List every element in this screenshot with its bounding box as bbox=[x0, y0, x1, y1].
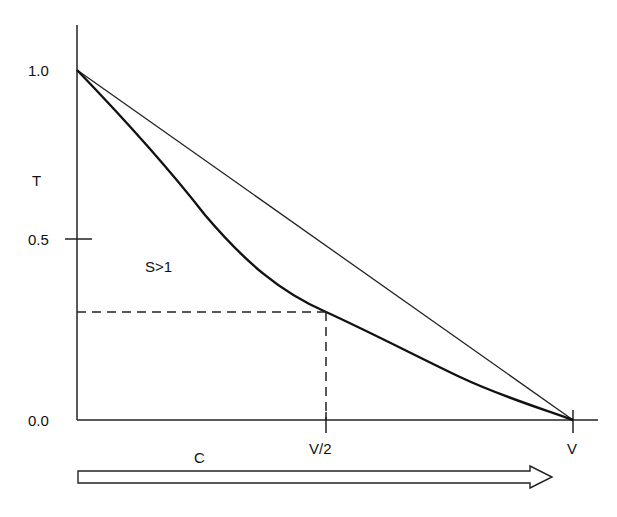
y-axis-label: T bbox=[32, 173, 41, 188]
annotation-label: S>1 bbox=[145, 259, 172, 274]
x-tick-label-v: V bbox=[567, 441, 577, 456]
y-tick-label-mid: 0.5 bbox=[28, 232, 49, 247]
x-tick-label-half: V/2 bbox=[309, 441, 332, 456]
y-tick-label-bottom: 0.0 bbox=[28, 413, 49, 428]
linear-series-line bbox=[77, 70, 573, 420]
y-tick-label-top: 1.0 bbox=[28, 63, 49, 78]
arrow-label: C bbox=[194, 450, 205, 465]
arrow-icon bbox=[78, 466, 552, 488]
